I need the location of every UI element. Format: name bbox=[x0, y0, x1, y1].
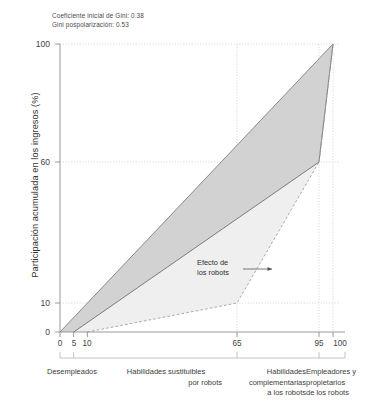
lorenz-curve-figure: Coeficiente inicial de Gini: 0.38 Gini p… bbox=[0, 0, 373, 412]
category-2-line3: a los robots bbox=[222, 388, 306, 399]
robot-effect-line2: los robots bbox=[197, 268, 229, 278]
y-tick-label-0: 0 bbox=[16, 327, 50, 337]
category-1-line1: Habilidades sustituibles bbox=[110, 367, 222, 378]
robot-effect-annotation: Efecto de los robots bbox=[197, 258, 229, 278]
y-tick-label-60: 60 bbox=[16, 157, 50, 167]
robot-effect-line1: Efecto de bbox=[197, 258, 229, 268]
y-tick-marks bbox=[55, 44, 60, 332]
category-0-line1: Desempleados bbox=[36, 367, 108, 378]
category-3-line2: propietarios bbox=[306, 378, 372, 389]
category-label-empleadores-propietarios: Empleadores y propietarios de los robots bbox=[306, 367, 372, 399]
category-2-line2: complementarias bbox=[222, 378, 306, 389]
category-label-habilidades-sustituibles: Habilidades sustituibles por robots bbox=[110, 367, 222, 388]
x-tick-label-65: 65 bbox=[224, 339, 250, 348]
category-bracket bbox=[60, 352, 345, 358]
category-1-line2: por robots bbox=[110, 378, 222, 389]
category-3-line3: de los robots bbox=[306, 388, 372, 399]
y-tick-label-10: 10 bbox=[16, 298, 50, 308]
plot-canvas bbox=[0, 0, 373, 412]
x-tick-label-10: 10 bbox=[74, 339, 100, 348]
category-2-line1: Habilidades bbox=[222, 367, 306, 378]
category-label-habilidades-complementarias: Habilidades complementarias a los robots bbox=[222, 367, 306, 399]
category-label-desempleados: Desempleados bbox=[36, 367, 108, 378]
x-tick-label-100: 100 bbox=[327, 339, 353, 348]
y-tick-label-100: 100 bbox=[16, 39, 50, 49]
x-tick-marks bbox=[60, 332, 333, 337]
category-3-line1: Empleadores y bbox=[306, 367, 372, 378]
